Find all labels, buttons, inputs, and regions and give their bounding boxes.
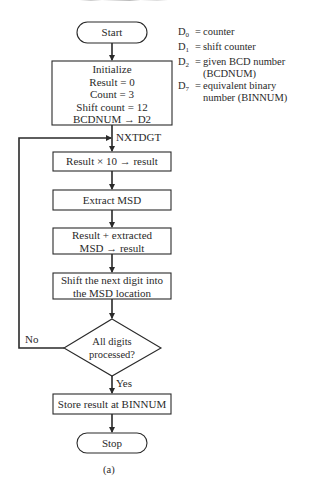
decision-line-1: All digits [70,336,154,349]
legend-value: given BCD number (BCDNUM) [203,56,295,80]
equals-sign: = [193,56,203,80]
start-label: Start [77,26,147,39]
shift-line-1: Shift the next digit into [53,274,171,287]
init-line-5: BCDNUM → D2 [52,113,172,126]
legend-row-d7: D7 = equivalent binary number (BINNUM) [178,80,296,104]
legend-value: counter [203,26,296,41]
stop-label: Stop [77,437,147,450]
decision-line-2: processed? [70,349,154,362]
legend-row-d2: D2 = given BCD number (BCDNUM) [178,56,296,80]
multiply-label: Result × 10 → result [53,155,171,168]
shift-line-2: the MSD location [53,287,171,300]
legend-value: shift counter [203,41,296,56]
legend-key: D0 [178,26,193,41]
extract-msd-label: Extract MSD [53,194,171,207]
equals-sign: = [193,80,203,104]
equals-sign: = [193,41,203,56]
legend-key: D1 [178,41,193,56]
nxtdgt-label: NXTDGT [116,131,161,143]
legend-value: equivalent binary number (BINNUM) [203,80,293,104]
initialize-text: Initialize Result = 0 Count = 3 Shift co… [52,63,172,126]
no-label: No [25,333,38,345]
legend-key: D7 [178,80,193,104]
register-legend: D0 = counter D1 = shift counter D2 = giv… [178,26,296,104]
shift-text: Shift the next digit into the MSD locati… [53,274,171,299]
legend-key: D2 [178,56,193,80]
add-text: Result + extracted MSD → result [53,229,171,254]
store-label: Store result at BINNUM [53,398,171,411]
add-line-1: Result + extracted [53,229,171,242]
legend-row-d1: D1 = shift counter [178,41,296,56]
yes-label: Yes [116,377,132,389]
legend-row-d0: D0 = counter [178,26,296,41]
init-line-3: Count = 3 [52,88,172,101]
add-line-2: MSD → result [53,242,171,255]
init-line-4: Shift count = 12 [52,101,172,114]
equals-sign: = [193,26,203,41]
init-line-1: Initialize [52,63,172,76]
decision-text: All digits processed? [70,336,154,361]
figure-caption: (a) [103,464,115,476]
init-line-2: Result = 0 [52,76,172,89]
